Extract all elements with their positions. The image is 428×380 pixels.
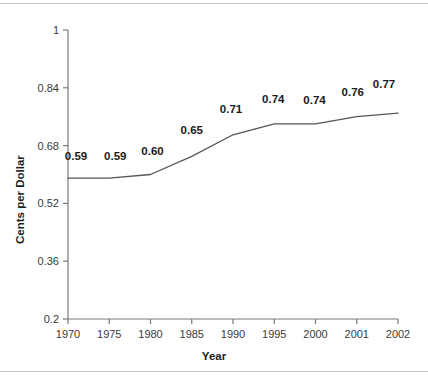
y-tick-label: 0.52: [38, 197, 59, 209]
axes: [68, 30, 398, 319]
x-tick-label: 2002: [386, 328, 410, 340]
x-tick-label: 1980: [138, 328, 162, 340]
x-tick-label: 1990: [221, 328, 245, 340]
data-point-label: 0.60: [141, 145, 163, 157]
y-tick-label: 0.84: [38, 82, 59, 94]
x-tick-label: 2000: [303, 328, 327, 340]
y-tick-label: 0.36: [38, 255, 59, 267]
chart-figure: 0.20.360.520.680.841 1970197519801985199…: [0, 0, 428, 380]
data-point-label: 0.59: [104, 150, 126, 162]
y-tick-label: 0.68: [38, 140, 59, 152]
data-point-label: 0.76: [342, 86, 364, 98]
x-tick-label: 1970: [56, 328, 80, 340]
data-point-label: 0.65: [181, 124, 203, 136]
data-series-line: [68, 113, 398, 178]
line-chart-plot: [0, 0, 428, 380]
data-point-label: 0.71: [220, 103, 242, 115]
x-tick-label: 1995: [262, 328, 286, 340]
x-tick-marks: [68, 319, 398, 324]
data-point-label: 0.59: [65, 150, 87, 162]
y-axis-title: Cents per Dollar: [14, 155, 26, 244]
data-point-label: 0.74: [303, 94, 325, 106]
x-axis-title: Year: [0, 350, 428, 362]
x-tick-label: 2001: [345, 328, 369, 340]
x-tick-label: 1985: [180, 328, 204, 340]
data-point-label: 0.74: [262, 93, 284, 105]
y-tick-marks: [63, 30, 68, 319]
data-point-label: 0.77: [373, 78, 395, 90]
y-tick-label: 0.2: [44, 313, 59, 325]
y-tick-label: 1: [53, 24, 59, 36]
x-tick-label: 1975: [97, 328, 121, 340]
